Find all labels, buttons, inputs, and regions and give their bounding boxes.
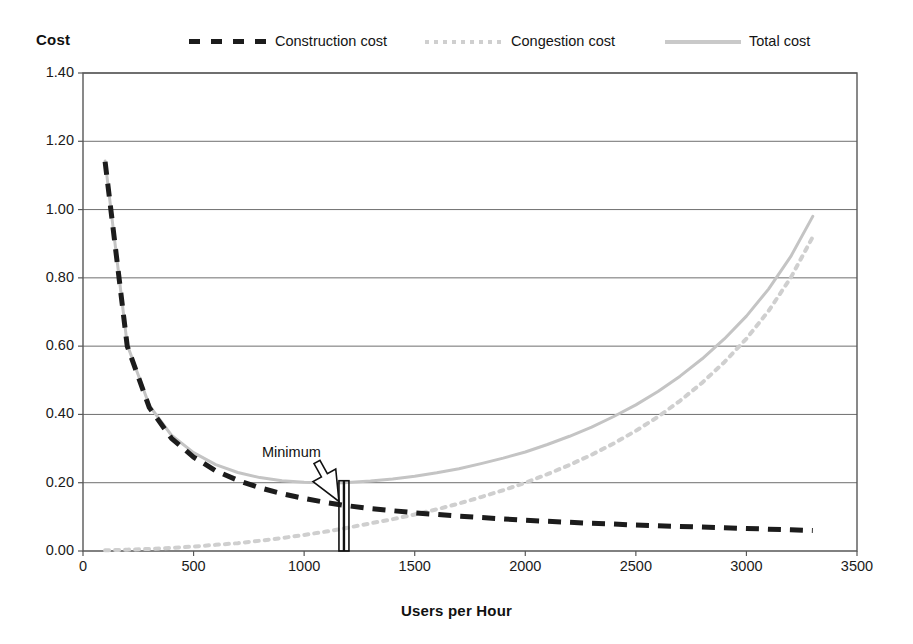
x-tick-label: 500 [159,558,229,574]
y-tick-label: 0.00 [12,542,74,558]
dotted-gray-swatch [421,35,507,47]
x-tick-label: 3000 [711,558,781,574]
y-tick-label: 0.80 [12,269,74,285]
x-tick-label: 3500 [822,558,892,574]
x-tick-label: 0 [48,558,118,574]
x-tick-label: 2000 [490,558,560,574]
y-tick-label: 0.20 [12,474,74,490]
x-tick-label: 1000 [269,558,339,574]
plot-frame [83,73,857,551]
legend-item-construction-cost[interactable]: Construction cost [185,33,387,49]
x-tick-label: 2500 [601,558,671,574]
minimum-arrow-icon [313,460,339,501]
y-tick-label: 0.40 [12,405,74,421]
y-tick-label: 1.00 [12,201,74,217]
y-tick-label: 1.20 [12,132,74,148]
x-tick-label: 1500 [380,558,450,574]
minimum-annotation-label: Minimum [262,444,321,460]
x-axis-title: Users per Hour [0,602,913,619]
legend-label-congestion-cost: Congestion cost [511,33,615,49]
legend-label-construction-cost: Construction cost [275,33,387,49]
solid-gray-swatch [659,35,745,47]
y-tick-label: 0.60 [12,337,74,353]
y-tick-label: 1.40 [12,64,74,80]
plot-area [0,0,913,644]
y-axis-title: Cost [36,31,70,48]
legend-label-total-cost: Total cost [749,33,810,49]
series-line-congestion-cost [105,237,813,550]
legend-item-congestion-cost[interactable]: Congestion cost [421,33,615,49]
dashed-black-swatch [185,35,271,47]
legend-item-total-cost[interactable]: Total cost [659,33,810,49]
chart-legend: Construction cost Congestion cost Total … [185,30,905,52]
cost-vs-users-chart: Cost Construction cost Congestion cost T… [0,0,913,644]
